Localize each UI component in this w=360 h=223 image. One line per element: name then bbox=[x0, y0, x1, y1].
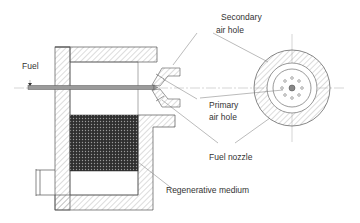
label-secondary-air-hole-1: Secondary bbox=[221, 12, 262, 22]
label-fuel-nozzle: Fuel nozzle bbox=[209, 152, 253, 162]
nozzle-cross-section bbox=[254, 50, 330, 126]
label-primary-air-hole-1: Primary bbox=[209, 100, 239, 110]
label-fuel: Fuel bbox=[22, 61, 39, 71]
label-primary-air-hole-2: air hole bbox=[209, 112, 237, 122]
regenerative-medium bbox=[70, 115, 138, 171]
fuel-pipe bbox=[28, 86, 154, 90]
burner-diagram: Fuel Secondary air hole Primary air hole… bbox=[0, 0, 360, 223]
label-secondary-air-hole-2: air hole bbox=[216, 25, 244, 35]
label-regenerative-medium: Regenerative medium bbox=[166, 185, 249, 195]
exhaust-port bbox=[36, 169, 55, 196]
